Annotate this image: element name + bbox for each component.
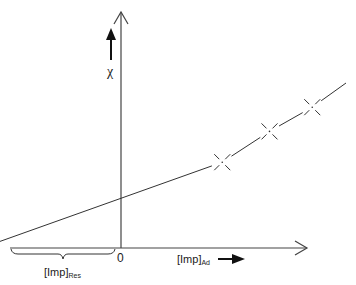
intercept-label-sub: Res (68, 272, 81, 279)
x-axis-label: [Imp]Ad (177, 253, 210, 266)
marker-arm (225, 154, 230, 159)
x-axis-label-main: [Imp] (177, 253, 201, 265)
marker-center (311, 106, 313, 108)
marker-center (269, 131, 271, 133)
marker-arm (262, 123, 267, 128)
data-marker-point-3 (304, 99, 320, 115)
marker-arm (225, 165, 230, 170)
data-marker-point-2 (262, 123, 278, 139)
marker-arm (304, 99, 309, 104)
data-line-segment (0, 166, 212, 248)
intercept-label: [Imp]Res (44, 266, 81, 279)
marker-arm (315, 110, 320, 115)
origin-label: 0 (117, 251, 124, 265)
diagram-canvas: χ 0 [Imp]Res [Imp]Ad (0, 0, 356, 285)
data-line-segment (231, 137, 260, 156)
marker-arm (262, 134, 267, 139)
x-direction-arrow-icon (232, 254, 245, 264)
data-line-segment (279, 113, 303, 126)
marker-center (221, 161, 223, 163)
intercept-label-main: [Imp] (44, 266, 68, 278)
marker-arm (273, 123, 278, 128)
data-line (0, 83, 346, 248)
x-axis-label-sub: Ad (201, 259, 210, 266)
data-marker-point-1 (214, 154, 230, 170)
y-direction-arrow-icon (106, 28, 116, 40)
y-axis-label: χ (106, 64, 114, 79)
data-markers (214, 99, 320, 170)
marker-arm (304, 110, 309, 115)
intercept-brace (11, 249, 115, 259)
marker-arm (214, 154, 219, 159)
marker-arm (315, 99, 320, 104)
marker-arm (273, 134, 278, 139)
marker-arm (214, 165, 219, 170)
data-line-segment (321, 83, 346, 101)
